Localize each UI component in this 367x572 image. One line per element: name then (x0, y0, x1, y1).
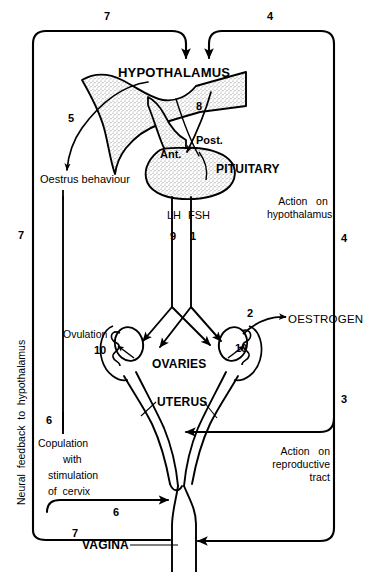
neural-feedback-label: Neural feedback to hypothalamus (16, 340, 28, 505)
anterior-pituitary-label: Ant. (160, 148, 181, 160)
action-on-tract-line1: Action on (264, 446, 330, 458)
step-4-top-label: 4 (267, 10, 273, 22)
action-on-reproductive-tract-loop-3 (186, 300, 334, 541)
vagina-label: VAGINA (82, 539, 129, 552)
diagram-canvas: HYPOTHALAMUS PITUITARY Ant. Post. 8 5 Oe… (0, 0, 367, 572)
copulation-line2: with (63, 454, 82, 466)
step-2-label: 2 (247, 307, 253, 319)
copulation-line1: Copulation (38, 438, 88, 450)
step-1-label: 1 (190, 230, 196, 242)
ovulation-label: Ovulation (63, 329, 107, 341)
step-10-right-label: 10 (235, 342, 247, 354)
step-9-label: 9 (170, 230, 176, 242)
posterior-pituitary-label: Post. (196, 134, 223, 146)
step-7-bottom-label: 7 (72, 527, 78, 539)
step-4-right-label: 4 (341, 232, 347, 244)
copulation-line4: of cervix (48, 486, 90, 498)
step-6-lower-label: 6 (113, 506, 119, 518)
lh-label: LH (167, 209, 181, 221)
action-on-tract-line3: tract (264, 472, 330, 484)
step-7-left-label: 7 (18, 229, 24, 241)
oestrus-behaviour-label: Oestrus behaviour (40, 173, 130, 185)
step-6-upper-label: 6 (46, 414, 52, 426)
uterus-label: UTERUS (157, 396, 208, 409)
hypothalamus-label: HYPOTHALAMUS (118, 66, 230, 81)
step-7-top-label: 7 (104, 10, 110, 22)
step-5-label: 5 (68, 112, 74, 124)
action-on-tract-line2: reproductive (264, 459, 330, 471)
action-on-hypothalamus-line2: hypothalamus (267, 209, 331, 221)
step-8-label: 8 (196, 100, 202, 112)
fsh-label: FSH (188, 209, 210, 221)
cervix-vagina-outline (172, 486, 196, 572)
copulation-arrow-6 (47, 500, 168, 512)
oestrogen-label: OESTROGEN (288, 313, 363, 326)
action-on-hypothalamus-line1: Action on (275, 196, 331, 208)
pituitary-label: PITUITARY (216, 163, 280, 176)
step-3-label: 3 (341, 393, 347, 405)
copulation-line3: stimulation (48, 470, 98, 482)
ovaries-label: OVARIES (152, 358, 207, 371)
step-10-left-label: 10 (94, 344, 106, 356)
